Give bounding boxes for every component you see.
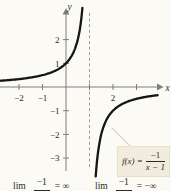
lim-operator: lim (95, 182, 108, 191)
limit-numerator: −1 (116, 178, 132, 191)
lim-operator: lim (13, 182, 26, 191)
formula-fraction: −1 x − 1 (146, 151, 165, 172)
x-tick-label: 2 (111, 93, 116, 103)
x-axis-label: x (165, 83, 171, 93)
function-curve-left (0, 8, 82, 81)
limit-expression-right: lim −1 = −∞ (95, 178, 157, 191)
y-tick-label: 1 (55, 59, 60, 69)
limit-numerator: −1 (34, 178, 50, 191)
y-tick-label: −1 (50, 106, 60, 116)
x-tick-label: −1 (38, 93, 48, 103)
y-tick-label: 2 (55, 35, 60, 45)
y-axis-label: y (67, 2, 73, 12)
limit-result: = ∞ (55, 182, 70, 191)
limit-result: = −∞ (137, 182, 157, 191)
y-tick-label: −2 (50, 130, 60, 140)
x-axis-arrow (157, 84, 164, 91)
figure: −2−1221−1−2−3xy f(x) = −1 x − 1 lim −1 =… (0, 0, 171, 191)
formula-numerator: −1 (146, 151, 165, 162)
limit-fraction: −1 (116, 178, 132, 191)
formula-lhs: f(x) = (122, 157, 143, 166)
y-tick-label: −3 (50, 153, 60, 163)
formula-callout: f(x) = −1 x − 1 (117, 146, 170, 177)
formula-denominator: x − 1 (146, 162, 165, 172)
limit-expression-left: lim −1 = ∞ (13, 178, 69, 191)
x-tick-label: −2 (14, 93, 24, 103)
limit-fraction: −1 (34, 178, 50, 191)
